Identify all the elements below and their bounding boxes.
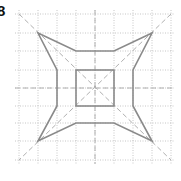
geometry-diagram — [0, 0, 181, 181]
